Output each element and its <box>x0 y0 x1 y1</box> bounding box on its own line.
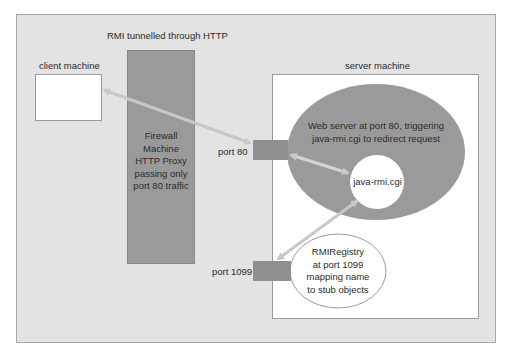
registry-text: RMIRegistry at port 1099 mapping name to… <box>292 246 384 296</box>
diagram-shapes <box>0 0 513 361</box>
port-1099-block <box>253 261 291 281</box>
port-80-block <box>253 140 288 160</box>
port-1099-label: port 1099 <box>212 266 252 277</box>
port-80-label: port 80 <box>218 146 248 157</box>
cgi-text: java-rmi.cgi <box>350 176 405 189</box>
web-server-text: Web server at port 80, triggering java-r… <box>290 120 462 145</box>
client-port80-arrow <box>104 90 250 143</box>
